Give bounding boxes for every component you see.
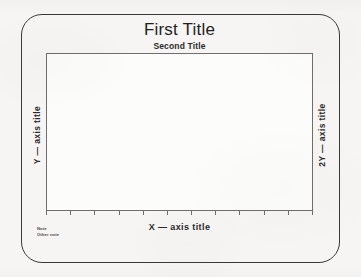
chart-notes: Note Other note bbox=[37, 226, 59, 238]
chart-subtitle: Second Title bbox=[46, 41, 313, 51]
x-axis-tick bbox=[46, 211, 47, 215]
x-axis-title: X — axis title bbox=[46, 222, 313, 232]
x-axis-tick bbox=[264, 211, 265, 215]
x-axis-tick bbox=[70, 211, 71, 215]
x-axis-tick bbox=[143, 211, 144, 215]
note-line-secondary: Other note bbox=[37, 232, 59, 238]
x-axis-tick bbox=[94, 211, 95, 215]
x-axis-tick bbox=[191, 211, 192, 215]
x-axis-tick bbox=[215, 211, 216, 215]
x-axis-tick bbox=[167, 211, 168, 215]
plot-area bbox=[46, 53, 313, 211]
secondary-y-axis-title: 2Y — axis title bbox=[317, 80, 329, 190]
page-title: First Title bbox=[46, 20, 313, 40]
x-axis-tick bbox=[119, 211, 120, 215]
x-axis-tick bbox=[239, 211, 240, 215]
x-axis-tick-marks bbox=[46, 211, 313, 216]
y-axis-title: Y — axis title bbox=[32, 80, 44, 190]
chart-template-page: First Title Second Title Y — axis title … bbox=[0, 0, 361, 277]
x-axis-tick bbox=[288, 211, 289, 215]
x-axis-tick bbox=[312, 211, 313, 215]
